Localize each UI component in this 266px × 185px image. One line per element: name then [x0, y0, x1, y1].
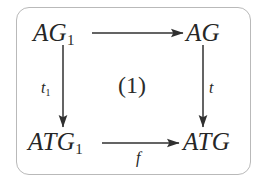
node-top-left-subscript: 1	[67, 32, 75, 48]
edge-label-bottom-base: f	[136, 149, 140, 166]
node-bottom-right: ATG	[183, 129, 230, 154]
node-top-left: AG1	[33, 20, 74, 45]
edge-label-right-base: t	[209, 79, 213, 96]
region-label: (1)	[118, 73, 146, 97]
node-top-right-base: AG	[186, 19, 220, 46]
edge-label-left-subscript: 1	[45, 87, 50, 98]
node-bottom-right-base: ATG	[183, 128, 230, 155]
node-bottom-left-subscript: 1	[75, 141, 83, 157]
commutative-diagram-figure: AG1 AG ATG1 ATG t1 t f (1)	[0, 0, 266, 185]
edge-label-bottom: f	[136, 150, 140, 166]
edge-label-right: t	[209, 80, 213, 96]
node-top-left-base: AG	[33, 19, 67, 46]
edge-label-left: t1	[41, 80, 50, 96]
node-bottom-left-base: ATG	[28, 128, 75, 155]
node-top-right: AG	[186, 20, 220, 45]
node-bottom-left: ATG1	[28, 129, 83, 154]
